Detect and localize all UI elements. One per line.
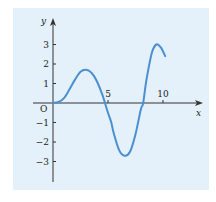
- y-axis-label: y: [40, 16, 47, 26]
- y-tick-label: 2: [43, 59, 49, 69]
- x-tick-label: 5: [105, 89, 111, 99]
- y-tick-label: −3: [36, 157, 50, 167]
- x-axis-label: x: [196, 108, 201, 118]
- y-tick-label: 3: [43, 40, 49, 50]
- x-tick-label: 10: [157, 89, 169, 99]
- y-tick-label: −2: [36, 137, 49, 147]
- origin-label: O: [40, 104, 47, 114]
- y-tick-label: 1: [43, 79, 49, 89]
- y-tick-label: −1: [36, 118, 49, 128]
- chart: 510321−1−2−3 x y O: [0, 0, 216, 202]
